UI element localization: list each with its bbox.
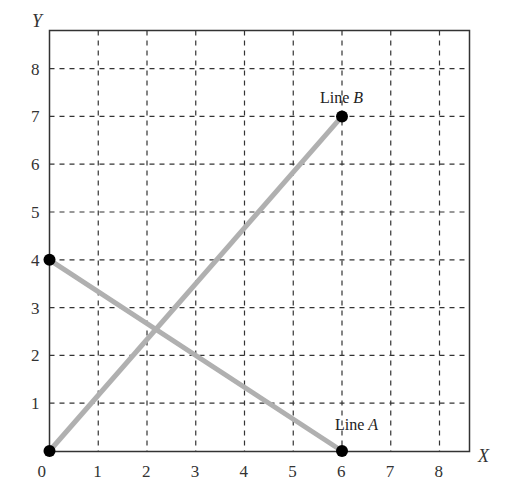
y-tick-label: 4: [31, 251, 40, 270]
endpoint-marker: [44, 254, 56, 266]
x-tick-label: 3: [191, 462, 200, 481]
line-a-label: Line A: [335, 416, 378, 433]
y-axis-ticks: 12345678: [31, 60, 40, 414]
x-axis-ticks: 012345678: [38, 462, 444, 481]
endpoint-marker: [336, 445, 348, 457]
endpoint-marker: [336, 110, 348, 122]
x-tick-label: 1: [93, 462, 102, 481]
x-tick-label: 5: [288, 462, 297, 481]
x-tick-label: 7: [386, 462, 395, 481]
y-tick-label: 1: [31, 394, 40, 413]
x-tick-label: 6: [337, 462, 346, 481]
y-axis-label: Y: [32, 11, 44, 31]
endpoint-marker: [44, 445, 56, 457]
plot-frame: [50, 31, 470, 452]
y-tick-label: 3: [31, 299, 40, 318]
x-tick-label: 4: [240, 462, 249, 481]
y-tick-label: 6: [31, 155, 40, 174]
x-axis-label: X: [477, 446, 490, 466]
x-tick-label: 0: [38, 462, 47, 481]
y-tick-label: 5: [31, 203, 40, 222]
y-tick-label: 7: [31, 107, 40, 126]
y-tick-label: 2: [31, 346, 40, 365]
x-tick-label: 2: [142, 462, 151, 481]
line-chart: 012345678 12345678 X Y Line B Line A: [0, 0, 505, 491]
line-b-label: Line B: [320, 89, 363, 106]
x-tick-label: 8: [435, 462, 444, 481]
grid-lines: [50, 31, 470, 452]
y-tick-label: 8: [31, 60, 40, 79]
